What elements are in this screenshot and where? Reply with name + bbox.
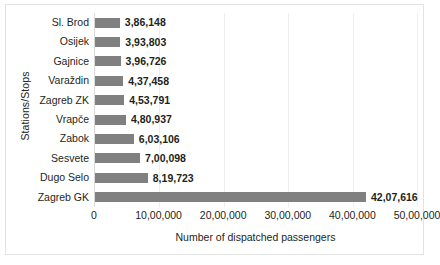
bar-value-label: 8,19,723 bbox=[148, 172, 194, 184]
bar-series: 3,86,1483,93,8033,96,7264,37,4584,53,791… bbox=[95, 13, 417, 207]
category-label: Sl. Brod bbox=[20, 13, 94, 32]
bar-row: 4,37,458 bbox=[95, 71, 417, 90]
x-axis-tick-labels: 010,00,00020,00,00030,00,00040,00,00050,… bbox=[94, 209, 417, 225]
chart-container: Stations/Stops Sl. BrodOsijekGajniceVara… bbox=[5, 4, 424, 255]
bar-value-label: 4,37,458 bbox=[123, 75, 169, 87]
bar-value-label: 3,96,726 bbox=[121, 55, 167, 67]
bar-row: 7,00,098 bbox=[95, 149, 417, 168]
bar-row: 4,80,937 bbox=[95, 110, 417, 129]
plot-area: 3,86,1483,93,8033,96,7264,37,4584,53,791… bbox=[94, 13, 417, 207]
bar-row: 8,19,723 bbox=[95, 168, 417, 187]
bar bbox=[95, 56, 121, 66]
bar-row: 3,96,726 bbox=[95, 52, 417, 71]
bar-row: 3,86,148 bbox=[95, 13, 417, 32]
category-label: Zagreb ZK bbox=[20, 91, 94, 110]
bar-value-label: 3,86,148 bbox=[120, 16, 166, 28]
category-label: Osijek bbox=[20, 32, 94, 51]
gridline bbox=[417, 13, 418, 207]
bar-row: 42,07,616 bbox=[95, 188, 417, 207]
x-axis-tick: 50,00,000 bbox=[394, 209, 440, 221]
category-label: Gajnice bbox=[20, 52, 94, 71]
category-axis-labels: Sl. BrodOsijekGajniceVaraždinZagreb ZKVr… bbox=[20, 13, 94, 207]
x-axis-tick: 30,00,000 bbox=[264, 209, 311, 221]
bar-value-label: 4,53,791 bbox=[124, 94, 170, 106]
bar bbox=[95, 134, 134, 144]
bar-value-label: 4,80,937 bbox=[126, 113, 172, 125]
bar bbox=[95, 173, 148, 183]
bar bbox=[95, 192, 366, 202]
category-label: Varaždin bbox=[20, 71, 94, 90]
bar bbox=[95, 37, 120, 47]
bar-value-label: 3,93,803 bbox=[120, 36, 166, 48]
category-label: Zabok bbox=[20, 129, 94, 148]
bar-value-label: 6,03,106 bbox=[134, 133, 180, 145]
bar bbox=[95, 76, 123, 86]
category-label: Vrapče bbox=[20, 110, 94, 129]
bar bbox=[95, 153, 140, 163]
plot-wrapper: Sl. BrodOsijekGajniceVaraždinZagreb ZKVr… bbox=[20, 9, 417, 250]
x-axis-tick: 40,00,000 bbox=[329, 209, 376, 221]
category-label: Sesvete bbox=[20, 149, 94, 168]
x-axis-tick: 20,00,000 bbox=[200, 209, 247, 221]
bar-value-label: 42,07,616 bbox=[366, 191, 418, 203]
x-axis-tick: 0 bbox=[91, 209, 97, 221]
category-label: Dugo Selo bbox=[20, 168, 94, 187]
bar-row: 6,03,106 bbox=[95, 129, 417, 148]
bar-value-label: 7,00,098 bbox=[140, 152, 186, 164]
bar bbox=[95, 18, 120, 28]
x-axis-title: Number of dispatched passengers bbox=[94, 231, 417, 243]
x-axis-tick: 10,00,000 bbox=[135, 209, 182, 221]
bar bbox=[95, 95, 124, 105]
bar bbox=[95, 115, 126, 125]
category-label: Zagreb GK bbox=[20, 188, 94, 207]
bar-row: 4,53,791 bbox=[95, 91, 417, 110]
bar-row: 3,93,803 bbox=[95, 32, 417, 51]
